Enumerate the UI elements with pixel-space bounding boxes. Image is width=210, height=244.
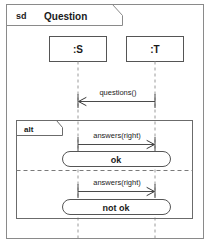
- lifeline-label-t: :T: [150, 44, 159, 55]
- state-invariant-label-not-ok: not ok: [103, 203, 131, 213]
- state-invariant-ok[interactable]: ok: [63, 152, 171, 167]
- message-questions[interactable]: questions(): [78, 88, 155, 108]
- frame-name-tab: sd Question: [7, 5, 123, 26]
- sequence-diagram-canvas: sd Question :S :T questions(): [0, 0, 210, 244]
- message-label-questions: questions(): [99, 88, 137, 97]
- message-answers-2[interactable]: answers(right): [78, 178, 155, 198]
- frame-name-label: Question: [44, 11, 87, 22]
- lifeline-label-s: :S: [73, 44, 83, 55]
- message-label-answers-2: answers(right): [93, 178, 141, 187]
- frame-kind-label: sd: [16, 11, 27, 21]
- state-invariant-not-ok[interactable]: not ok: [63, 200, 171, 215]
- fragment-operator-label: alt: [24, 125, 34, 134]
- message-label-answers-1: answers(right): [93, 131, 141, 140]
- message-answers-1[interactable]: answers(right): [78, 131, 155, 151]
- lifeline-head-t[interactable]: :T: [127, 37, 184, 62]
- state-invariant-label-ok: ok: [111, 155, 122, 165]
- lifeline-head-s[interactable]: :S: [50, 37, 107, 62]
